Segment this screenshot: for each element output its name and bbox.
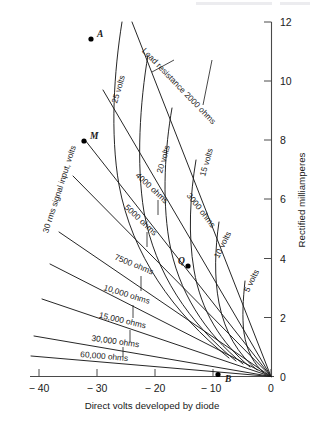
curve-label-25-volts: 25 volts [109,74,126,104]
y-tick-label-8: 8 [280,134,286,146]
resistance-line-2000 [132,22,271,377]
chart-plot-area: − 40 − 30 − 20 − 10 0 12 10 8 6 4 2 0 Di… [0,0,316,431]
y-tick-label-0: 0 [280,371,286,383]
x-tick-label-minus40: − 40 [29,382,50,394]
curve-label-5-volts: 5 volts [242,268,262,294]
curve-label-15-volts: 15 volts [197,147,214,177]
y-tick-label-2: 2 [280,312,286,324]
resistance-line-5000 [73,176,271,377]
signal-family-title: 30 rms signal input, volts [40,144,78,234]
point-label-A: A [96,29,103,39]
curve-label-15000-ohms: 15,000 ohms [98,310,147,331]
point-label-M: M [89,131,99,141]
diode-detector-nomograph: − 40 − 30 − 20 − 10 0 12 10 8 6 4 2 0 Di… [0,0,316,431]
x-tick-label-minus10: − 10 [201,382,222,394]
curve-label-10000-ohms: 10,000 ohms [102,282,151,306]
y-tick-label-10: 10 [280,75,292,87]
x-axis [30,369,274,377]
y-tick-label-12: 12 [280,16,292,28]
y-tick-label-6: 6 [280,193,286,205]
x-tick-label-minus30: − 30 [87,382,108,394]
point-label-Q: Q [178,256,185,266]
curve-label-20-volts: 20 volts [154,144,171,174]
point-Q-marker [185,263,190,268]
point-label-B: B [224,374,231,384]
x-tick-label-minus20: − 20 [145,382,166,394]
x-axis-title: Direct volts developed by diode [85,400,220,411]
resistance-line-60000 [31,356,271,377]
x-tick-label-zero: 0 [268,382,274,394]
y-tick-label-4: 4 [280,253,286,265]
resistance-line-15000 [42,299,271,377]
point-B-marker [215,372,220,377]
y-axis-title: Rectified milliamperes [296,152,307,247]
point-A-marker [88,36,93,41]
signal-curve-15v [190,160,250,367]
point-M-marker [81,138,86,143]
load-resistance-lines [31,22,271,377]
leader-3000-pointer [203,60,212,105]
resistance-line-30000 [34,336,271,377]
y-axis [264,22,272,377]
